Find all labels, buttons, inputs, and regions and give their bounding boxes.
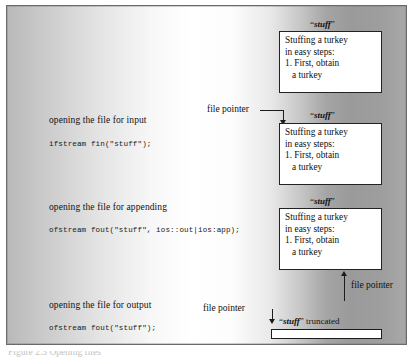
truncated-file-name: stuff	[283, 316, 300, 326]
file-3-line-4: a turkey	[285, 247, 376, 259]
file-2-line-2: in easy steps:	[285, 139, 376, 151]
file-name-1: stuff	[314, 19, 331, 29]
file-3-line-2: in easy steps:	[285, 224, 376, 236]
code-opening-output: ofstream fout("stuff");	[49, 324, 156, 332]
file-pointer-label-output: file pointer	[203, 303, 245, 313]
truncated-file-box	[271, 329, 382, 339]
file-2-line-3: 1. First, obtain	[285, 150, 376, 162]
truncated-file-label: “stuff” truncated	[279, 316, 340, 326]
file-name-3: stuff	[314, 196, 331, 206]
screenshot-root: opening the file for input ifstream fin(…	[0, 0, 415, 362]
file-title-1: “stuff”	[310, 19, 335, 29]
code-opening-append: ofstream fout("stuff", ios::out|ios:app)…	[49, 226, 240, 234]
file-box-1: Stuffing a turkey in easy steps: 1. Firs…	[279, 31, 382, 93]
file-3-line-3: 1. First, obtain	[285, 235, 376, 247]
file-1-line-2: in easy steps:	[285, 47, 376, 59]
file-box-3: Stuffing a turkey in easy steps: 1. Firs…	[279, 208, 382, 270]
figure-panel: opening the file for input ifstream fin(…	[6, 5, 407, 345]
code-opening-input: ifstream fin("stuff");	[49, 140, 151, 148]
file-pointer-leader-vertical-append	[344, 276, 345, 301]
file-1-line-3: 1. First, obtain	[285, 58, 376, 70]
file-pointer-label-append: file pointer	[351, 280, 393, 290]
figure-caption-clipped: Figure 2.3 Opening files	[8, 351, 308, 362]
label-opening-output: opening the file for output	[49, 300, 151, 310]
file-2-line-1: Stuffing a turkey	[285, 127, 376, 139]
quote-close-2: ”	[331, 110, 335, 120]
file-pointer-arrow-append	[341, 271, 347, 276]
quote-close-1: ”	[331, 19, 335, 29]
truncated-suffix: truncated	[304, 316, 340, 326]
label-opening-input: opening the file for input	[49, 115, 147, 125]
file-name-2: stuff	[314, 110, 331, 120]
file-pointer-leader-horizontal-input	[260, 110, 283, 111]
label-opening-append: opening the file for appending	[49, 202, 167, 212]
file-1-line-4: a turkey	[285, 70, 376, 82]
figure-caption-text: Figure 2.3 Opening files	[8, 351, 308, 357]
file-box-2: Stuffing a turkey in easy steps: 1. Firs…	[279, 123, 382, 185]
file-pointer-arrow-output	[269, 319, 275, 324]
file-title-2: “stuff”	[310, 110, 335, 120]
file-title-3: “stuff”	[310, 196, 335, 206]
file-2-line-4: a turkey	[285, 162, 376, 174]
quote-close-3: ”	[331, 196, 335, 206]
file-pointer-label-input: file pointer	[207, 104, 249, 114]
file-3-line-1: Stuffing a turkey	[285, 212, 376, 224]
file-1-line-1: Stuffing a turkey	[285, 35, 376, 47]
